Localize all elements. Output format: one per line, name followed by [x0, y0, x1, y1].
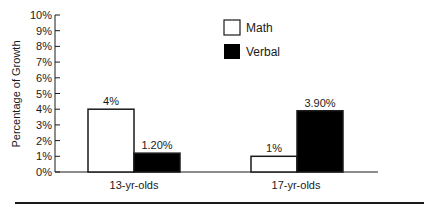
value-label-math-1: 1%	[266, 142, 282, 154]
bar-verbal-1	[297, 111, 343, 172]
y-tick-label: 0%	[36, 166, 52, 178]
y-tick-label: 8%	[36, 40, 52, 52]
y-tick-label: 2%	[36, 135, 52, 147]
y-tick-label: 1%	[36, 150, 52, 162]
y-tick-label: 6%	[36, 72, 52, 84]
y-tick-label: 3%	[36, 119, 52, 131]
y-tick-label: 9%	[36, 25, 52, 37]
bar-chart: Percentage of Growth 0%1%2%3%4%5%6%7%8%9…	[0, 0, 442, 209]
category-label-13: 13-yr-olds	[110, 179, 159, 191]
bar-verbal-0	[134, 153, 180, 172]
category-label-17: 17-yr-olds	[272, 179, 321, 191]
bar-math-0	[88, 109, 134, 172]
bars-group: 4%1.20%1%3.90%	[88, 95, 343, 172]
legend-label-math: Math	[246, 21, 273, 35]
y-tick-label: 10%	[30, 9, 52, 21]
value-label-verbal-1: 3.90%	[304, 97, 335, 109]
legend-swatch-math	[224, 20, 240, 35]
bar-math-1	[251, 156, 297, 172]
y-tick-label: 7%	[36, 56, 52, 68]
value-label-math-0: 4%	[103, 95, 119, 107]
legend: Math Verbal	[224, 20, 280, 59]
value-label-verbal-0: 1.20%	[141, 139, 172, 151]
legend-label-verbal: Verbal	[246, 45, 280, 59]
y-tick-label: 5%	[36, 88, 52, 100]
y-tick-label: 4%	[36, 103, 52, 115]
legend-swatch-verbal	[224, 44, 240, 59]
y-axis-title: Percentage of Growth	[10, 40, 22, 147]
